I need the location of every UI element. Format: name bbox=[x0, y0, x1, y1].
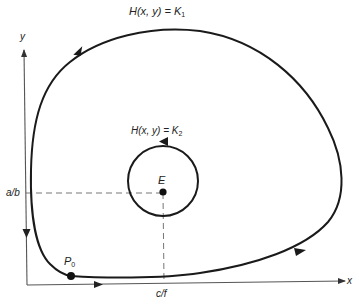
label-k2: H(x, y) = K2 bbox=[131, 126, 182, 137]
x-tick-label: c/f bbox=[156, 289, 167, 299]
phase-plane-diagram: H(x, y) = K1 H(x, y) = K2 E P0 y x a/b c… bbox=[0, 0, 359, 306]
x-axis bbox=[27, 281, 345, 288]
flow-arrow-icon bbox=[23, 229, 31, 238]
y-axis bbox=[23, 50, 31, 285]
initial-point bbox=[67, 272, 75, 280]
y-tick-label: a/b bbox=[6, 188, 20, 198]
label-e: E bbox=[158, 175, 165, 186]
label-p0: P0 bbox=[64, 256, 75, 268]
flow-arrow-icon bbox=[294, 248, 306, 256]
x-axis-label: x bbox=[347, 276, 352, 286]
label-k1: H(x, y) = K1 bbox=[129, 6, 185, 18]
dashed-guide-vertical bbox=[163, 193, 164, 282]
flow-arrow-icon bbox=[94, 281, 103, 288]
flow-arrow-icon bbox=[72, 46, 83, 56]
equilibrium-point bbox=[159, 188, 166, 195]
diagram-graphics bbox=[0, 0, 359, 306]
y-axis-label: y bbox=[20, 32, 25, 42]
flow-arrow-icon bbox=[159, 137, 168, 146]
